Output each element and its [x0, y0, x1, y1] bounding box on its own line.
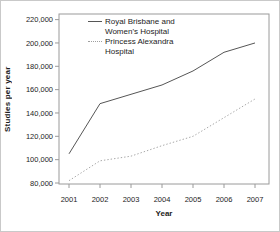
y-tick-label: 160,000 [26, 85, 53, 94]
x-tick-label: 2006 [216, 195, 233, 204]
x-axis-label: Year [59, 209, 269, 218]
y-axis-label: Studies per year [3, 14, 16, 184]
legend-label-royal-brisbane: Royal Brisbane andWomen's Hospital [105, 17, 175, 36]
y-tick-label: 140,000 [26, 109, 53, 118]
x-tick-label: 2001 [61, 195, 78, 204]
y-tick-label: 200,000 [26, 39, 53, 48]
y-tick-label: 80,000 [30, 179, 53, 188]
x-tick-label: 2003 [123, 195, 140, 204]
x-tick-label: 2004 [154, 195, 171, 204]
legend-item-royal-brisbane: Royal Brisbane andWomen's Hospital [88, 17, 175, 36]
legend-label-line: Princess Alexandra [105, 37, 173, 46]
legend-label-line: Women's Hospital [105, 27, 169, 36]
legend-label-line: Hospital [105, 47, 134, 56]
x-tick-label: 2007 [247, 195, 264, 204]
legend-label-princess-alexandra: Princess AlexandraHospital [105, 37, 173, 56]
y-tick-label: 120,000 [26, 132, 53, 141]
legend: Royal Brisbane andWomen's Hospital Princ… [88, 17, 175, 57]
legend-label-line: Royal Brisbane and [105, 17, 175, 26]
y-tick-label: 220,000 [26, 15, 53, 24]
y-tick-label: 180,000 [26, 62, 53, 71]
x-tick-label: 2005 [185, 195, 202, 204]
y-tick-label: 100,000 [26, 155, 53, 164]
series-line-dotted [69, 99, 255, 181]
x-tick-label: 2002 [92, 195, 109, 204]
line-chart-figure: 80,000100,000120,000140,000160,000180,00… [0, 0, 280, 232]
dotted-line-sample-icon [88, 41, 102, 42]
series-line-solid [69, 43, 255, 154]
solid-line-sample-icon [88, 21, 102, 22]
legend-item-princess-alexandra: Princess AlexandraHospital [88, 37, 175, 56]
